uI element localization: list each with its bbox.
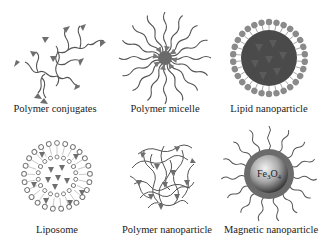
micelle-core [158,51,172,65]
panel-magnetic-nanoparticle: Fe3O4 Magnetic nanoparticle [214,124,324,248]
panel-polymer-micelle: Polymer micelle [110,0,220,124]
label-polymer-conjugates: Polymer conjugates [0,103,110,114]
panel-polymer-conjugates: Polymer conjugates [0,0,110,124]
panel-liposome: Liposome [0,124,110,248]
label-polymer-nanoparticle: Polymer nanoparticle [112,224,222,235]
panel-polymer-nanoparticle: Polymer nanoparticle [108,124,218,248]
panel-lipid-nanoparticle: Lipid nanoparticle [218,0,328,124]
label-lipid-nanoparticle: Lipid nanoparticle [214,103,324,114]
label-polymer-micelle: Polymer micelle [110,103,220,114]
label-liposome: Liposome [2,224,112,235]
label-magnetic-nanoparticle: Magnetic nanoparticle [216,224,326,235]
